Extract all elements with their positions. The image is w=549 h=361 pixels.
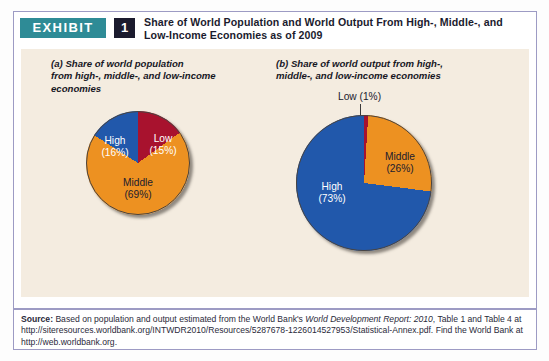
chart-b-middle-pct: (26%) bbox=[386, 163, 413, 174]
exhibit-page: EXHIBIT 1 Share of World Population and … bbox=[0, 0, 549, 361]
chart-a-high-label: High (16%) bbox=[94, 135, 136, 159]
chart-a-middle-label: Middle (69%) bbox=[110, 177, 166, 201]
chart-a-middle-name: Middle bbox=[123, 177, 153, 188]
exhibit-frame: EXHIBIT 1 Share of World Population and … bbox=[13, 11, 537, 350]
chart-a-low-name: Low bbox=[154, 133, 173, 144]
chart-a-block: (a) Share of world population from high-… bbox=[51, 49, 266, 297]
chart-b-subtitle-line2: middle-, and low-income economies bbox=[276, 70, 441, 81]
chart-a-subtitle: (a) Share of world population from high-… bbox=[51, 58, 216, 95]
chart-a-low-label: Low (15%) bbox=[142, 133, 184, 157]
source-italic-title: World Development Report: 2010 bbox=[305, 314, 433, 324]
chart-a-label: (a) bbox=[51, 58, 63, 69]
chart-b-middle-label: Middle (26%) bbox=[372, 151, 428, 175]
chart-b-subtitle-line1: Share of world output from high-, bbox=[291, 58, 443, 69]
chart-a-middle-pct: (69%) bbox=[124, 189, 151, 200]
source-label: Source: bbox=[21, 314, 53, 324]
chart-a-subtitle-line3: economies bbox=[51, 83, 101, 94]
chart-b-middle-name: Middle bbox=[385, 151, 415, 162]
chart-b-high-pct: (73%) bbox=[318, 193, 345, 204]
charts-panel: (a) Share of world population from high-… bbox=[21, 49, 529, 297]
chart-a-high-name: High bbox=[105, 135, 126, 146]
chart-a-subtitle-line1: Share of world population bbox=[65, 58, 183, 69]
source-divider bbox=[14, 308, 536, 310]
source-note: Source: Based on population and output e… bbox=[21, 314, 529, 348]
chart-b-low-callout: Low (1%) bbox=[338, 91, 381, 102]
chart-b-label: (b) bbox=[276, 58, 288, 69]
chart-b-block: (b) Share of world output from high-, mi… bbox=[276, 49, 521, 297]
chart-b-high-name: High bbox=[322, 181, 343, 192]
exhibit-header: EXHIBIT 1 Share of World Population and … bbox=[14, 12, 536, 49]
chart-a-subtitle-line2: from high-, middle-, and low-income bbox=[51, 70, 216, 81]
exhibit-number-badge: 1 bbox=[114, 18, 135, 38]
chart-b-subtitle: (b) Share of world output from high-, mi… bbox=[276, 58, 443, 83]
source-text-before: Based on population and output estimated… bbox=[53, 314, 305, 324]
exhibit-title: Share of World Population and World Outp… bbox=[144, 16, 524, 42]
chart-b-high-label: High (73%) bbox=[308, 181, 356, 205]
chart-a-high-pct: (16%) bbox=[101, 147, 128, 158]
chart-a-pie-wrap: Low (15%) High (16%) Middle (69%) bbox=[86, 111, 196, 221]
chart-a-low-pct: (15%) bbox=[149, 145, 176, 156]
exhibit-badge: EXHIBIT bbox=[20, 18, 106, 38]
chart-b-pie-wrap: Middle (26%) High (73%) bbox=[296, 115, 436, 255]
